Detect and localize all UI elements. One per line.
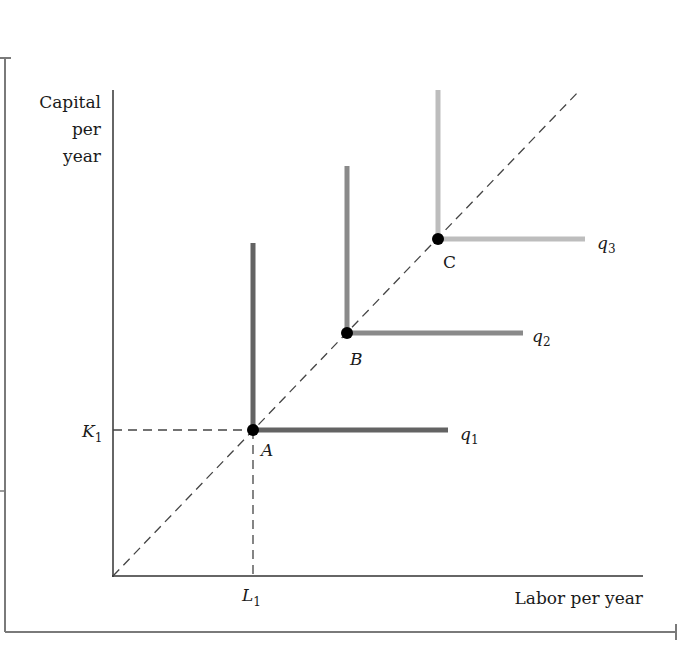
l1-label: L1 [241, 585, 261, 609]
point-c-label: C [443, 252, 456, 272]
q1-label: q1 [460, 424, 479, 447]
point-c-marker [432, 233, 444, 245]
isoquant-q2 [345, 166, 523, 333]
point-b-label: B [349, 349, 363, 369]
point-a-marker [247, 424, 259, 436]
isoquant-diagram: A B C q1 q2 q3 K1 L1 Capital per year La… [0, 0, 679, 655]
y-axis-label-line3: year [62, 146, 102, 166]
point-a-label: A [259, 440, 273, 460]
y-axis-label-line1: Capital [39, 92, 101, 112]
q2-label: q2 [532, 326, 551, 349]
outer-frame [0, 58, 677, 640]
k1-label: K1 [81, 421, 102, 445]
point-b-marker [341, 327, 353, 339]
x-axis-label: Labor per year [515, 588, 644, 608]
q3-label: q3 [597, 233, 616, 256]
y-axis-label-line2: per [72, 119, 102, 139]
